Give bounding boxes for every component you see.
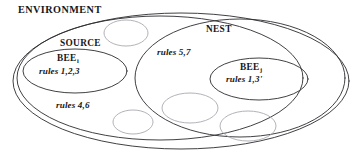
cell-3-ellipse	[162, 93, 218, 123]
bee-source-label: BEEi	[57, 54, 79, 64]
source-label: SOURCE	[60, 39, 101, 48]
bee-nest-label: BEEj	[240, 63, 262, 73]
diagram-canvas: ENVIRONMENT SOURCE NEST BEEi rules 1,2,3…	[0, 0, 358, 158]
diagram-svg	[0, 0, 358, 158]
nest-label: NEST	[206, 25, 232, 34]
environment-rules: rules 4,6	[56, 101, 90, 110]
bee-nest-name: BEE	[240, 62, 260, 72]
environment-boundary	[13, 13, 349, 149]
bee-source-subscript: i	[77, 58, 79, 64]
bee-source-rules: rules 1,2,3	[39, 67, 80, 76]
bee-nest-subscript: j	[260, 67, 262, 73]
nest-rules: rules 5,7	[157, 48, 191, 57]
bee-source-name: BEE	[57, 53, 77, 63]
bee-nest-rules: rules 1,3'	[226, 75, 262, 84]
environment-label: ENVIRONMENT	[18, 5, 102, 15]
cell-1-ellipse	[104, 20, 148, 46]
cell-2-ellipse	[113, 110, 153, 134]
